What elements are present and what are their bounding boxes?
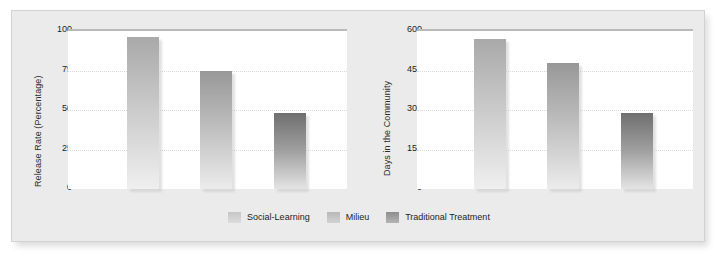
plot-inner-right	[417, 31, 693, 189]
legend-swatch-icon	[386, 212, 399, 223]
chart-legend: Social-LearningMilieuTraditional Treatme…	[12, 206, 706, 228]
legend-swatch-icon	[228, 212, 241, 223]
legend-item[interactable]: Traditional Treatment	[386, 212, 490, 223]
bar-2	[621, 113, 653, 189]
bar-0	[474, 39, 506, 189]
figure-root: Release Rate (Percentage) 0255075100 Day…	[0, 0, 718, 260]
plot-area-left	[68, 29, 347, 189]
legend-label: Social-Learning	[247, 212, 310, 222]
plot-inner-left	[68, 31, 347, 189]
bar-face	[127, 37, 159, 189]
bar-face	[547, 63, 579, 189]
bar-1	[200, 71, 232, 190]
bar-1	[547, 63, 579, 189]
bar-face	[274, 113, 306, 189]
legend-item[interactable]: Social-Learning	[228, 212, 310, 223]
bar-face	[621, 113, 653, 189]
chart-panel: Release Rate (Percentage) 0255075100 Day…	[11, 10, 705, 242]
bar-face	[474, 39, 506, 189]
bar-face	[200, 71, 232, 190]
legend-label: Traditional Treatment	[405, 212, 490, 222]
bar-0	[127, 37, 159, 189]
plot-area-right	[417, 29, 693, 189]
legend-label: Milieu	[346, 212, 370, 222]
legend-item[interactable]: Milieu	[327, 212, 370, 223]
bar-2	[274, 113, 306, 189]
legend-swatch-icon	[327, 212, 340, 223]
